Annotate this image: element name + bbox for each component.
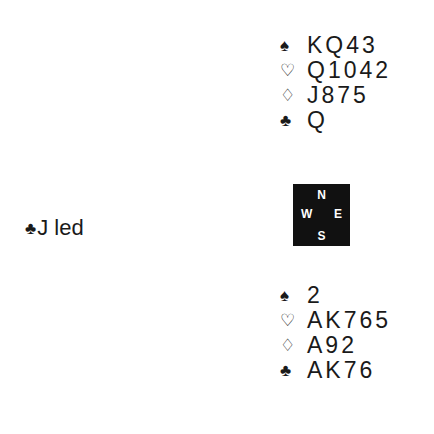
south-spades-cards: 2 xyxy=(307,284,323,307)
north-hearts-cards: Q1042 xyxy=(307,59,391,82)
north-spades-row: ♠ KQ43 xyxy=(280,33,391,58)
heart-icon: ♡ xyxy=(280,312,307,329)
south-diamonds-row: ♢ A92 xyxy=(280,333,391,358)
south-clubs-cards: AK76 xyxy=(307,359,375,382)
compass-box: N W E S xyxy=(293,184,350,246)
spade-icon: ♠ xyxy=(280,287,307,304)
south-hearts-cards: AK765 xyxy=(307,309,391,332)
south-diamonds-cards: A92 xyxy=(307,334,357,357)
compass-east-label: E xyxy=(334,208,342,220)
diamond-icon: ♢ xyxy=(280,87,307,104)
club-icon: ♣ xyxy=(25,220,36,237)
spade-icon: ♠ xyxy=(280,37,307,54)
north-hand: ♠ KQ43 ♡ Q1042 ♢ J875 ♣ Q xyxy=(280,33,391,133)
south-clubs-row: ♣ AK76 xyxy=(280,358,391,383)
north-clubs-cards: Q xyxy=(307,109,328,132)
opening-lead: ♣ J led xyxy=(25,215,84,241)
club-icon: ♣ xyxy=(280,362,307,379)
south-hearts-row: ♡ AK765 xyxy=(280,308,391,333)
north-diamonds-row: ♢ J875 xyxy=(280,83,391,108)
south-hand: ♠ 2 ♡ AK765 ♢ A92 ♣ AK76 xyxy=(280,283,391,383)
lead-text: J led xyxy=(37,215,83,241)
south-spades-row: ♠ 2 xyxy=(280,283,391,308)
compass-south-label: S xyxy=(317,230,325,242)
diamond-icon: ♢ xyxy=(280,337,307,354)
heart-icon: ♡ xyxy=(280,62,307,79)
north-hearts-row: ♡ Q1042 xyxy=(280,58,391,83)
compass-west-label: W xyxy=(301,208,312,220)
compass-north-label: N xyxy=(317,189,326,201)
north-diamonds-cards: J875 xyxy=(307,84,369,107)
north-clubs-row: ♣ Q xyxy=(280,108,391,133)
club-icon: ♣ xyxy=(280,112,307,129)
north-spades-cards: KQ43 xyxy=(307,34,378,57)
